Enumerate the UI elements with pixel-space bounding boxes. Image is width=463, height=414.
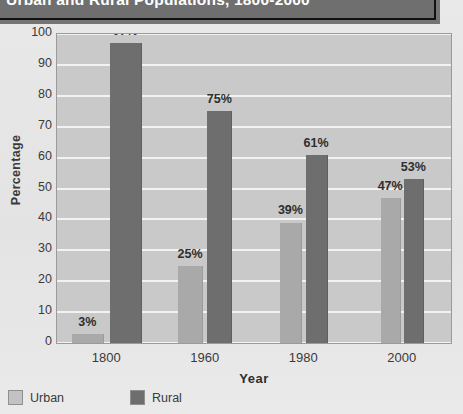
bar-value-label: 3% [65,315,109,329]
bar-urban-1960 [178,266,203,343]
y-axis-tick: 10 [6,303,52,317]
legend-item-rural[interactable]: Rural [130,390,182,405]
bar-rural-2000 [404,179,424,343]
x-axis-tick-1960: 1960 [160,350,250,365]
bar-urban-1800 [72,334,104,343]
x-axis-tick-1980: 1980 [258,350,348,365]
bar-value-label: 75% [197,92,241,106]
chart-title-banner: Urban and Rural Populations, 1800-2000 [0,0,436,20]
chart-title: Urban and Rural Populations, 1800-2000 [6,0,426,9]
legend-item-urban[interactable]: Urban [8,390,64,405]
y-axis-tick: 100 [6,25,52,39]
y-axis-tick: 90 [6,56,52,70]
legend-label: Urban [30,391,64,405]
bar-urban-2000 [381,198,401,343]
bar-rural-1800 [110,43,142,343]
y-axis-tick: 0 [6,334,52,348]
legend-label: Rural [152,391,182,405]
bar-value-label: 25% [168,247,212,261]
x-axis-label: Year [56,371,452,386]
bar-value-label: 53% [391,160,435,174]
y-axis-tick: 80 [6,87,52,101]
bar-rural-1960 [207,111,232,343]
plot-area: 3%97%25%75%39%61%47%53% [56,33,452,344]
legend-swatch-urban-icon [8,390,23,405]
x-axis-tick-1800: 1800 [61,350,151,365]
y-axis-tick: 30 [6,241,52,255]
bar-value-label: 97% [103,33,147,38]
legend-swatch-rural-icon [130,390,145,405]
chart-figure: Urban and Rural Populations, 1800-2000 1… [0,0,463,414]
y-axis-label: Percentage [9,120,23,220]
y-axis-ticks: 1009080706050403020100 [0,33,52,344]
bar-value-label: 61% [294,136,338,150]
y-axis-tick: 20 [6,272,52,286]
bar-urban-1980 [280,223,302,344]
x-axis-tick-2000: 2000 [357,350,447,365]
bar-rural-1980 [306,155,328,343]
